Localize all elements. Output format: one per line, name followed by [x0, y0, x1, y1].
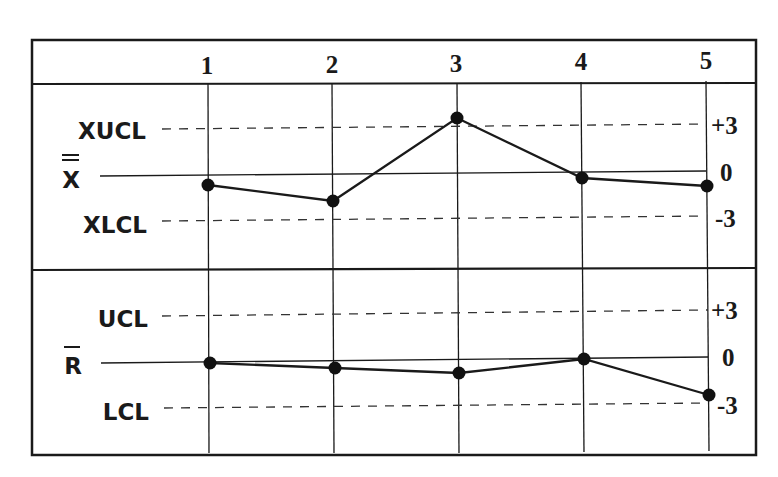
control-chart-diagram: 1 2 3 4 5 XUCL X XLCL +3 0 -3: [0, 0, 778, 477]
r-bar-label: R: [64, 347, 82, 379]
column-header-4: 4: [575, 48, 588, 75]
xbar-point-1: [202, 179, 215, 192]
column-headers: 1 2 3 4 5: [201, 47, 713, 79]
panel-divider: [32, 268, 756, 270]
column-header-5: 5: [700, 47, 713, 74]
lcl-line: [164, 403, 708, 408]
column-header-3: 3: [450, 50, 463, 77]
r-point-2: [329, 362, 342, 375]
xbar-center-line: [100, 171, 706, 176]
r-point-4: [578, 353, 591, 366]
xucl-label: XUCL: [78, 118, 146, 144]
xbar-right-center: 0: [720, 159, 733, 186]
xbar-panel: XUCL X XLCL +3 0 -3: [62, 112, 738, 239]
column-header-2: 2: [326, 51, 339, 78]
xbar-point-5: [701, 180, 714, 193]
r-point-5: [703, 389, 716, 402]
xlcl-line: [162, 216, 706, 221]
chart-frame: [32, 40, 756, 455]
r-center-label: R: [64, 353, 82, 379]
xbar-double-bar-label: X: [62, 155, 80, 193]
xbar-point-3: [451, 112, 464, 125]
r-right-upper: +3: [711, 297, 738, 324]
r-point-1: [204, 357, 217, 370]
column-gridlines: [208, 81, 709, 453]
r-point-3: [453, 367, 466, 380]
xbar-point-4: [576, 172, 589, 185]
ucl-label: UCL: [98, 306, 149, 332]
r-right-center: 0: [722, 344, 735, 371]
xucl-line: [162, 124, 706, 129]
xbar-right-lower: -3: [715, 205, 736, 232]
ucl-line: [162, 310, 708, 316]
r-right-lower: -3: [717, 392, 738, 419]
xbar-point-2: [327, 195, 340, 208]
lcl-label: LCL: [103, 399, 150, 425]
column-header-1: 1: [201, 52, 214, 79]
xbar-right-upper: +3: [711, 112, 738, 139]
r-center-line: [101, 357, 708, 363]
header-divider: [32, 83, 756, 84]
range-panel: UCL R LCL +3 0 -3: [64, 297, 738, 425]
xbar-center-label: X: [62, 167, 80, 193]
xlcl-label: XLCL: [83, 212, 147, 238]
